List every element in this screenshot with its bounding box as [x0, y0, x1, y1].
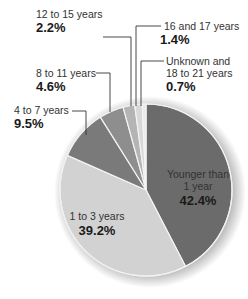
- pct-16-17: 1.4%: [160, 32, 190, 47]
- pct-1-3: 39.2%: [52, 223, 142, 238]
- label-12-15: 12 to 15 years: [36, 8, 103, 20]
- label-younger-line1: Younger than: [158, 168, 238, 180]
- label-4-7: 4 to 7 years: [14, 104, 69, 116]
- leader-line-12-15: [103, 37, 131, 106]
- pie-chart: [0, 0, 248, 299]
- leader-line-16-17: [136, 26, 161, 106]
- pct-4-7: 9.5%: [14, 116, 44, 131]
- pct-unknown: 0.7%: [166, 79, 196, 94]
- label-16-17: 16 and 17 years: [164, 20, 239, 32]
- pct-younger: 42.4%: [158, 193, 238, 208]
- pct-8-11: 4.6%: [36, 79, 66, 94]
- label-younger-line2: 1 year: [158, 180, 238, 192]
- label-8-11: 8 to 11 years: [36, 67, 96, 79]
- label-unknown-line1: Unknown and: [166, 55, 230, 67]
- pct-12-15: 2.2%: [36, 20, 66, 35]
- label-1-3: 1 to 3 years: [52, 210, 142, 222]
- label-unknown-line2: 18 to 21 years: [166, 67, 233, 79]
